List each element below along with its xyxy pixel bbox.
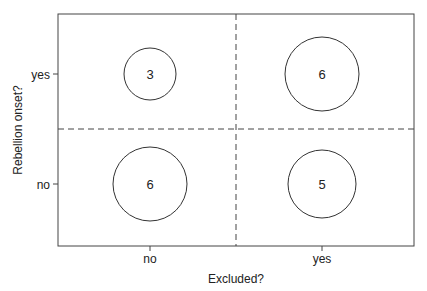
ytick-no: no [37,178,51,192]
xtick-yes: yes [313,252,332,266]
bubble-label-no-no: 6 [146,177,153,192]
bubble-label-yes-yes: 6 [318,67,325,82]
bubble-label-no-yes: 3 [146,67,153,82]
xtick-no: no [143,252,157,266]
x-axis-label: Excluded? [208,272,264,286]
ytick-yes: yes [31,68,50,82]
y-axis-label: Rebellion onset? [11,85,25,175]
bubble-chart: 3 6 6 5 yes no no yes Excluded? Rebellio… [0,0,427,291]
bubble-label-yes-no: 5 [318,177,325,192]
